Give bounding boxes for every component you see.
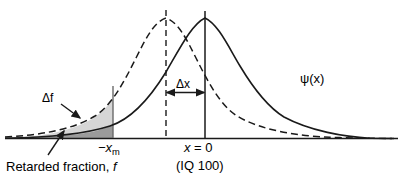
distribution-shift-figure: ψ(x) Δx Δf −xm x = 0 (IQ 100) Retarded f… xyxy=(0,0,402,184)
x-threshold-label: −xm xyxy=(98,141,120,157)
delta-f-shaded-region xyxy=(5,84,128,138)
retarded-fraction-text: Retarded fraction, xyxy=(6,159,113,174)
curve-label-psi: ψ(x) xyxy=(300,72,324,86)
x-threshold-prefix: −x xyxy=(98,140,112,155)
delta-x-label: Δx xyxy=(176,78,190,91)
iq-label: (IQ 100) xyxy=(176,159,224,173)
curve-reference-solid xyxy=(5,18,394,139)
retarded-fraction-symbol: f xyxy=(113,159,117,174)
delta-f-leader-arrow xyxy=(61,104,80,118)
curve-shifted-dashed xyxy=(5,18,392,139)
retarded-fraction-label: Retarded fraction, f xyxy=(6,160,117,174)
x-zero-value: = 0 xyxy=(191,140,213,155)
delta-f-label: Δf xyxy=(42,92,53,105)
x-zero-label: x = 0 xyxy=(184,141,213,155)
plot-canvas xyxy=(0,0,402,184)
x-threshold-subscript: m xyxy=(112,147,120,157)
